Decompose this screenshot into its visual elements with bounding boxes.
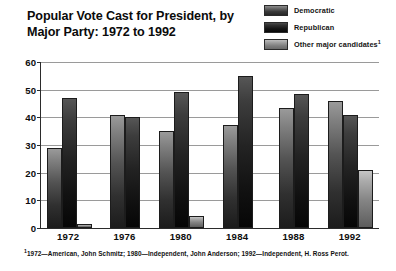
bar-1984-republican bbox=[238, 76, 253, 228]
y-axis-tick-50: 50 bbox=[8, 84, 36, 95]
bar-groups bbox=[41, 62, 379, 228]
y-axis: 0102030405060 bbox=[8, 55, 36, 230]
legend-label-other-text: Other major candidates bbox=[294, 41, 378, 50]
bar-1972-republican bbox=[62, 98, 77, 228]
bar-1980-democratic bbox=[159, 131, 174, 228]
x-axis-tick-1980: 1980 bbox=[153, 231, 209, 242]
x-axis-tick-1984: 1984 bbox=[209, 231, 265, 242]
plot-area: 0102030405060 197219761980198419881992 bbox=[0, 55, 396, 240]
bar-group-1980 bbox=[154, 62, 210, 228]
bar-1988-democratic bbox=[279, 108, 294, 228]
x-axis: 197219761980198419881992 bbox=[40, 231, 378, 242]
bar-1980-other-major-candidates bbox=[189, 216, 204, 228]
chart-legend: Democratic Republican Other major candid… bbox=[264, 3, 396, 54]
legend-label-other: Other major candidates1 bbox=[294, 39, 381, 49]
bar-group-1988 bbox=[266, 62, 322, 228]
y-tickmark-0 bbox=[37, 228, 41, 229]
y-axis-tick-20: 20 bbox=[8, 167, 36, 178]
bar-1984-democratic bbox=[223, 125, 238, 228]
legend-label-democratic: Democratic bbox=[294, 6, 335, 15]
y-axis-tick-60: 60 bbox=[8, 57, 36, 68]
bar-1992-other-major-candidates bbox=[358, 170, 373, 228]
legend-swatch-republican bbox=[264, 22, 288, 33]
legend-item-republican: Republican bbox=[264, 20, 396, 35]
bar-group-1992 bbox=[323, 62, 379, 228]
x-axis-tick-1972: 1972 bbox=[40, 231, 96, 242]
x-axis-tick-1992: 1992 bbox=[322, 231, 378, 242]
y-axis-tick-30: 30 bbox=[8, 140, 36, 151]
bar-1972-other-major-candidates bbox=[77, 224, 92, 228]
y-axis-tick-40: 40 bbox=[8, 112, 36, 123]
page-title: Popular Vote Cast for President, by Majo… bbox=[27, 9, 242, 40]
bar-1992-republican bbox=[343, 115, 358, 228]
bar-1976-republican bbox=[125, 117, 140, 228]
chart-page: Popular Vote Cast for President, by Majo… bbox=[0, 0, 396, 271]
bar-group-1976 bbox=[97, 62, 153, 228]
legend-item-democratic: Democratic bbox=[264, 3, 396, 18]
x-axis-tick-1976: 1976 bbox=[96, 231, 152, 242]
bar-1972-democratic bbox=[47, 148, 62, 228]
bar-1980-republican bbox=[174, 92, 189, 228]
bar-group-1984 bbox=[210, 62, 266, 228]
legend-item-other: Other major candidates1 bbox=[264, 37, 396, 52]
bar-1988-republican bbox=[294, 94, 309, 228]
x-axis-tick-1988: 1988 bbox=[265, 231, 321, 242]
legend-swatch-democratic bbox=[264, 5, 288, 16]
plot-canvas bbox=[40, 62, 379, 229]
bar-group-1972 bbox=[41, 62, 97, 228]
y-axis-tick-0: 0 bbox=[8, 223, 36, 234]
bar-1992-democratic bbox=[328, 101, 343, 228]
y-axis-tick-10: 10 bbox=[8, 195, 36, 206]
chart-footnote: 11972—American, John Schmitz; 1980—Indep… bbox=[24, 248, 390, 257]
bar-1976-democratic bbox=[110, 115, 125, 228]
footnote-text: 1972—American, John Schmitz; 1980—Indepe… bbox=[27, 250, 349, 257]
title-line-2: Major Party: 1972 to 1992 bbox=[27, 25, 242, 41]
legend-swatch-other bbox=[264, 39, 288, 50]
title-line-1: Popular Vote Cast for President, by bbox=[27, 9, 242, 25]
legend-footnote-marker: 1 bbox=[378, 39, 381, 45]
legend-label-republican: Republican bbox=[294, 23, 334, 32]
